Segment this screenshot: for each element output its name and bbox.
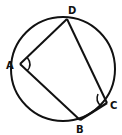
vertex-label-A: A [6, 60, 14, 71]
vertex-label-B: B [76, 124, 84, 135]
edge-DC [67, 19, 107, 103]
vertex-label-D: D [68, 5, 76, 16]
edge-CB [80, 103, 107, 120]
edge-BA [20, 64, 80, 120]
vertex-label-C: C [110, 100, 117, 111]
angle-mark-A [27, 57, 30, 71]
cyclic-quadrilateral-diagram: A B C D [0, 0, 122, 135]
